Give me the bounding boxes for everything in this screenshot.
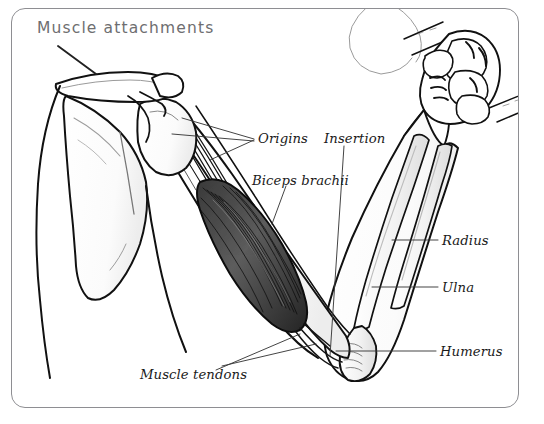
label-muscle-tendons: Muscle tendons: [140, 367, 247, 382]
label-radius: Radius: [442, 233, 489, 248]
page-title: Muscle attachments: [37, 19, 214, 37]
label-insertion: Insertion: [324, 131, 385, 146]
label-humerus: Humerus: [440, 344, 503, 359]
figure-page: Muscle attachments Origins Insertion Bic…: [0, 0, 544, 424]
label-origins: Origins: [258, 131, 308, 146]
label-ulna: Ulna: [442, 280, 474, 295]
label-biceps-brachii: Biceps brachii: [252, 173, 349, 188]
